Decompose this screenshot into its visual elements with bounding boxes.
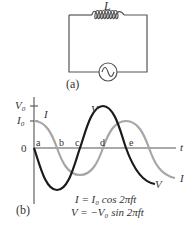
i0-tick-label: I0 [16,114,25,128]
point-a: a [36,137,41,148]
point-c: c [75,137,80,148]
zero-tick-label: 0 [21,142,27,154]
point-e: e [129,137,134,148]
current-curve [34,121,175,178]
t-axis-label: t [180,141,184,153]
inductor-label: L [103,0,111,13]
v0-tick-label: V0 [15,99,26,113]
inductor-ac-diagram: L (a) V0 I0 0 t a b c d e I V V I (b) I … [0,0,194,226]
panel-label-b: (b) [16,203,30,217]
current-start-label: I [43,108,49,120]
panel-label-a: (a) [66,77,79,91]
voltage-equation: V = −V₀ sin 2πft [71,206,145,218]
circuit [69,11,147,82]
point-d: d [100,137,105,148]
current-end-label: I [179,172,185,184]
current-equation: I = I₀ cos 2πft [74,193,137,205]
point-b: b [59,137,64,148]
voltage-end-label: V [155,178,163,190]
